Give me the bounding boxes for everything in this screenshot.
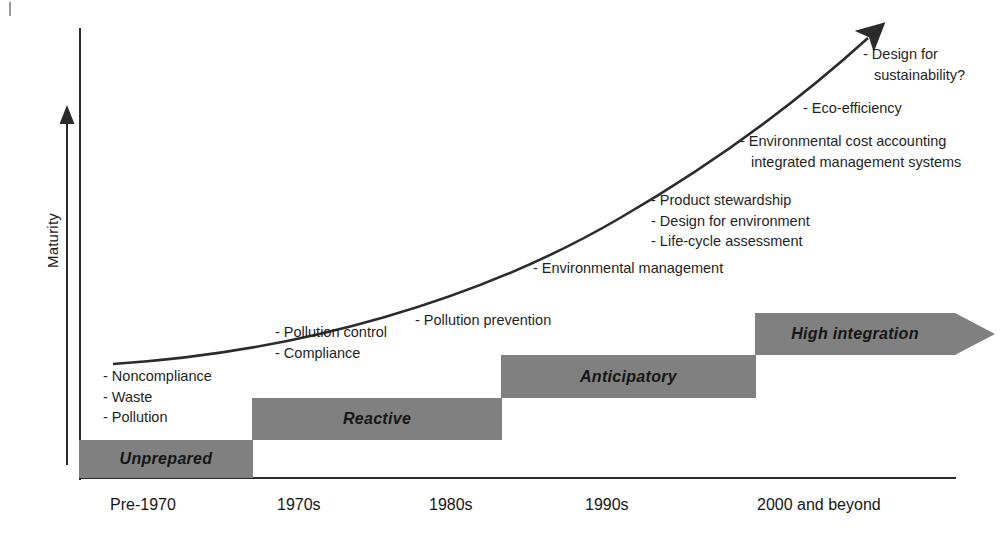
annotation-line: - Environmental cost accounting bbox=[740, 131, 961, 152]
y-axis-label: Maturity bbox=[44, 181, 61, 301]
stage-label-anticipatory: Anticipatory bbox=[580, 368, 677, 386]
stage-bar-unprepared: Unprepared bbox=[79, 440, 253, 478]
stage-bar-anticipatory: Anticipatory bbox=[501, 355, 756, 398]
x-axis-tick-1990s: 1990s bbox=[585, 496, 629, 514]
annotation-pollution-control: - Pollution control - Compliance bbox=[275, 322, 387, 363]
annotation-line: - Environmental management bbox=[533, 258, 723, 279]
arrowhead-icon bbox=[955, 313, 995, 355]
annotation-line: - Compliance bbox=[275, 343, 387, 364]
annotation-line: - Design for bbox=[863, 44, 965, 65]
annotation-design-for-sustainability: - Design for sustainability? bbox=[863, 44, 965, 85]
annotation-line: - Waste bbox=[103, 387, 212, 408]
annotation-environmental-management: - Environmental management bbox=[533, 258, 723, 279]
annotation-line: - Eco-efficiency bbox=[803, 98, 902, 119]
annotation-environmental-cost-accounting: - Environmental cost accounting integrat… bbox=[740, 131, 961, 172]
x-axis-tick-2000-and-beyond: 2000 and beyond bbox=[757, 496, 881, 514]
stage-label-reactive: Reactive bbox=[343, 410, 411, 428]
annotation-line: integrated management systems bbox=[740, 152, 961, 173]
annotation-line: - Product stewardship bbox=[651, 190, 810, 211]
maturity-diagram: Maturity Unprepared Reactive Anticipator… bbox=[0, 0, 1005, 542]
annotation-line: - Life-cycle assessment bbox=[651, 231, 810, 252]
annotation-noncompliance: - Noncompliance - Waste - Pollution bbox=[103, 366, 212, 428]
x-axis-tick-1970s: 1970s bbox=[277, 496, 321, 514]
stage-bar-reactive: Reactive bbox=[252, 398, 502, 440]
x-axis-tick-pre-1970: Pre-1970 bbox=[110, 496, 176, 514]
annotation-product-stewardship: - Product stewardship - Design for envir… bbox=[651, 190, 810, 252]
stage-label-unprepared: Unprepared bbox=[120, 450, 213, 468]
page-edge-mark bbox=[9, 2, 11, 16]
stage-bar-high-integration: High integration bbox=[755, 313, 955, 355]
annotation-line: sustainability? bbox=[863, 65, 965, 86]
annotation-pollution-prevention: - Pollution prevention bbox=[415, 310, 551, 331]
annotation-line: - Pollution bbox=[103, 407, 212, 428]
annotation-line: - Design for environment bbox=[651, 211, 810, 232]
stage-label-high-integration: High integration bbox=[791, 325, 918, 343]
annotation-eco-efficiency: - Eco-efficiency bbox=[803, 98, 902, 119]
annotation-line: - Noncompliance bbox=[103, 366, 212, 387]
annotation-line: - Pollution prevention bbox=[415, 310, 551, 331]
x-axis-tick-1980s: 1980s bbox=[429, 496, 473, 514]
annotation-line: - Pollution control bbox=[275, 322, 387, 343]
